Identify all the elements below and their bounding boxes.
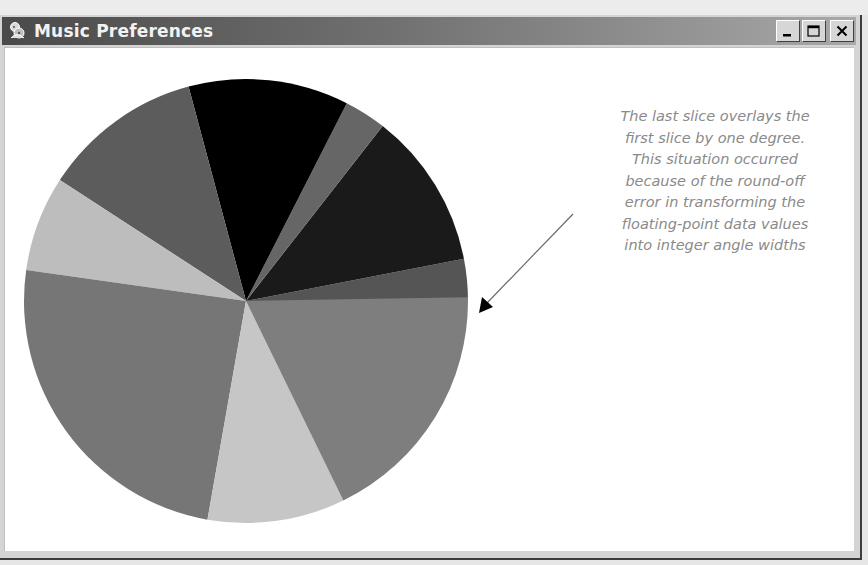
maximize-icon bbox=[807, 25, 821, 38]
window-title: Music Preferences bbox=[34, 21, 213, 41]
window-controls bbox=[776, 20, 854, 42]
annotation-line: because of the round-off bbox=[570, 171, 860, 193]
music-preferences-window: Music Preferences bbox=[0, 15, 862, 560]
annotation-arrow bbox=[479, 214, 573, 313]
pie-slices bbox=[24, 79, 468, 523]
annotation-line: The last slice overlays the bbox=[570, 106, 860, 128]
annotation-line: error in transforming the bbox=[570, 192, 860, 214]
annotation-line: first slice by one degree. bbox=[570, 128, 860, 150]
desktop-background bbox=[0, 0, 868, 15]
title-bar[interactable]: Music Preferences bbox=[2, 17, 856, 45]
maximize-button[interactable] bbox=[802, 20, 826, 42]
music-app-icon[interactable] bbox=[6, 20, 28, 42]
annotation-line: into integer angle widths bbox=[570, 235, 860, 257]
annotation-text: The last slice overlays the first slice … bbox=[570, 106, 860, 257]
minimize-icon bbox=[782, 25, 794, 37]
close-icon bbox=[836, 25, 848, 37]
annotation-line: floating-point data values bbox=[570, 214, 860, 236]
chart-panel: The last slice overlays the first slice … bbox=[4, 47, 854, 551]
annotation-line: This situation occurred bbox=[570, 149, 860, 171]
minimize-button[interactable] bbox=[776, 20, 800, 42]
close-button[interactable] bbox=[830, 20, 854, 42]
pie-slice-7 bbox=[24, 270, 246, 520]
